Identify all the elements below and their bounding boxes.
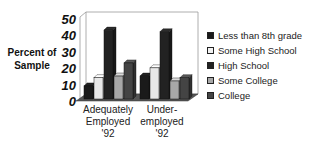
- legend: Less than 8th grade Some High School Hig…: [207, 28, 302, 103]
- legend-item-high-school: High School: [207, 58, 302, 73]
- bar-high-school: [160, 32, 169, 99]
- legend-swatch: [207, 47, 214, 54]
- legend-item-college: College: [207, 88, 302, 103]
- legend-item-less-than-8th: Less than 8th grade: [207, 28, 302, 43]
- bar-college: [180, 78, 189, 99]
- bar-some-high-school: [150, 68, 159, 99]
- bar-college: [124, 63, 133, 99]
- bar-high-school: [104, 30, 113, 99]
- legend-item-some-high-school: Some High School: [207, 43, 302, 58]
- bar-some-college: [170, 81, 179, 99]
- bar-less-than-8th-grade: [140, 76, 149, 99]
- category-label-adequately-employed: Adequately Employed '92: [78, 104, 138, 140]
- legend-swatch: [207, 92, 214, 99]
- bar-less-than-8th-grade: [84, 86, 93, 99]
- bar-some-high-school: [94, 78, 103, 99]
- legend-swatch: [207, 62, 214, 69]
- bar-some-college: [114, 76, 123, 99]
- legend-swatch: [207, 77, 214, 84]
- legend-swatch: [207, 32, 214, 39]
- category-label-underemployed: Under- employed '92: [132, 104, 192, 140]
- legend-item-some-college: Some College: [207, 73, 302, 88]
